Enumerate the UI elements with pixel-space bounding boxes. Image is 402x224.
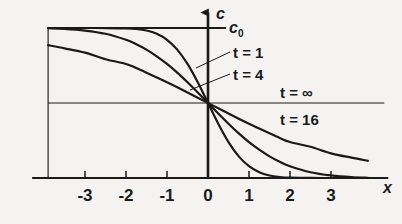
c0-subscript: 0 [238,28,244,39]
x-tick-label-2: -1 [147,187,187,204]
c0-level-label: c0 [229,20,243,39]
x-tick-label-5: 2 [270,187,310,204]
curve-label-t4: t = 4 [233,67,263,82]
x-tick-label-0: -3 [65,187,105,204]
reference-lines-group [48,28,384,178]
curve-label-t1: t = 1 [233,45,263,60]
c0-symbol: c [229,19,238,36]
annotation-leader-lines-group [190,52,230,90]
y-axis-label: c [216,6,225,22]
axes-group [32,13,388,179]
x-tick-label-1: -2 [106,187,146,204]
leader-line-t1 [196,52,230,68]
curve-label-t16: t = 16 [280,112,319,127]
x-axis-label: x [383,180,392,196]
x-tick-label-6: 3 [311,187,351,204]
leader-line-t4 [190,74,230,90]
diffusion-concentration-figure: c x c0 t = 1 t = 4 t = ∞ t = 16 -3-2-101… [0,0,402,224]
x-tick-label-4: 1 [229,187,269,204]
curve-label-t-infinity: t = ∞ [280,85,313,100]
x-tick-label-3: 0 [188,187,228,204]
